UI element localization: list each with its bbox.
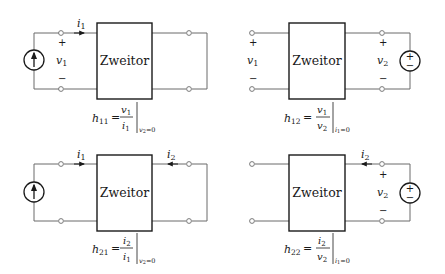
svg-text:−: − — [406, 192, 414, 203]
current-label-i1: i1 — [77, 148, 86, 162]
h-parameter-diagram: i1 + v1 − Zweitor h11 = v1 i1 v2=0 + — [0, 0, 445, 274]
voltage-label-v1: v1 — [247, 54, 258, 68]
voltage-minus-sign-v2: − — [379, 205, 387, 216]
terminal-1-bottom — [59, 87, 64, 92]
svg-text:v2=0: v2=0 — [139, 257, 155, 265]
svg-text:i1=0: i1=0 — [335, 257, 350, 265]
wire-output-short — [192, 33, 207, 89]
voltage-plus-sign-v2: + — [379, 169, 387, 180]
terminal-1-bottom — [250, 219, 255, 224]
terminal-2-top — [380, 31, 385, 36]
svg-text:v1: v1 — [121, 104, 131, 117]
formula-h11: h11 = v1 i1 v2=0 — [92, 102, 155, 134]
current-label-i2: i2 — [167, 148, 176, 162]
current-label-i1: i1 — [77, 17, 86, 31]
formula-h21: h21 = i2 i1 v2=0 — [92, 233, 155, 265]
svg-text:v2: v2 — [317, 120, 327, 133]
panel-h21: i1 i2 Zweitor h21 = i2 i1 v2=0 — [24, 148, 207, 265]
terminal-2-top — [380, 162, 385, 167]
svg-text:h21: h21 — [92, 243, 109, 257]
voltage-source-icon: + − — [400, 183, 420, 203]
svg-text:h11: h11 — [92, 112, 109, 126]
two-port-label: Zweitor — [292, 53, 341, 68]
voltage-label-v2: v2 — [377, 54, 388, 68]
terminal-1-bottom — [250, 87, 255, 92]
svg-text:i2: i2 — [123, 235, 131, 248]
terminal-2-bottom — [187, 219, 192, 224]
voltage-label-v2: v2 — [377, 186, 388, 200]
svg-text:i2: i2 — [318, 235, 326, 248]
terminal-1-top — [250, 31, 255, 36]
terminal-2-top — [187, 31, 192, 36]
current-label-i2: i2 — [361, 148, 370, 162]
svg-text:v2: v2 — [317, 251, 327, 264]
formula-h22: h22 = i2 v2 i1=0 — [284, 233, 350, 265]
svg-text:i1: i1 — [122, 120, 130, 133]
voltage-minus-sign: − — [58, 73, 66, 84]
current-source-icon — [24, 182, 44, 202]
svg-text:=: = — [303, 242, 312, 255]
terminal-2-top — [187, 162, 192, 167]
current-source-icon — [24, 50, 44, 70]
svg-text:=: = — [111, 111, 120, 124]
terminal-1-bottom — [59, 219, 64, 224]
panel-h22: + − i2 + v2 − Zweitor h22 = i2 v2 i1=0 — [250, 148, 420, 265]
terminal-1-top — [250, 162, 255, 167]
terminal-1-top — [59, 31, 64, 36]
svg-text:i1: i1 — [123, 251, 131, 264]
svg-text:v2=0: v2=0 — [139, 126, 155, 134]
svg-text:h12: h12 — [284, 112, 301, 126]
terminal-2-bottom — [380, 219, 385, 224]
voltage-minus-sign-v1: − — [249, 73, 257, 84]
two-port-label: Zweitor — [100, 185, 149, 200]
svg-text:=: = — [303, 111, 312, 124]
voltage-label-v1: v1 — [56, 54, 67, 68]
voltage-plus-sign-v1: + — [249, 37, 257, 48]
two-port-label: Zweitor — [100, 53, 149, 68]
svg-text:=: = — [111, 242, 120, 255]
svg-text:v1: v1 — [317, 104, 327, 117]
terminal-2-bottom — [187, 87, 192, 92]
panel-h11: i1 + v1 − Zweitor h11 = v1 i1 v2=0 — [24, 17, 207, 134]
svg-text:h22: h22 — [284, 243, 301, 257]
terminal-1-top — [59, 162, 64, 167]
terminal-2-bottom — [380, 87, 385, 92]
voltage-source-icon: + − — [400, 51, 420, 71]
panel-h12: + − + v1 − + v2 − Zweitor h12 = v1 v2 i1… — [247, 23, 420, 134]
formula-h12: h12 = v1 v2 i1=0 — [284, 102, 350, 134]
voltage-plus-sign-v2: + — [379, 37, 387, 48]
svg-text:−: − — [406, 60, 414, 71]
voltage-plus-sign: + — [58, 37, 66, 48]
wire-output-short — [192, 164, 207, 221]
two-port-label: Zweitor — [292, 185, 341, 200]
svg-text:i1=0: i1=0 — [335, 126, 350, 134]
voltage-minus-sign-v2: − — [379, 73, 387, 84]
